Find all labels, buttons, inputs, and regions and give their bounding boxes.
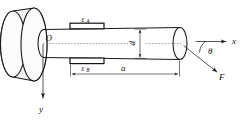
angle-theta-arc bbox=[200, 42, 206, 53]
shaft-top-edge bbox=[44, 28, 180, 30]
strain-gauge-bottom bbox=[70, 58, 104, 64]
angle-label: θ bbox=[208, 46, 213, 56]
force-label: F bbox=[218, 72, 225, 82]
shaft-bottom-edge bbox=[44, 58, 180, 60]
diameter-label: d bbox=[127, 41, 137, 46]
y-axis-label: y bbox=[38, 104, 43, 114]
fixed-support-disk bbox=[0, 8, 47, 81]
gauge-b-subscript: B bbox=[86, 67, 90, 73]
length-label: a bbox=[121, 63, 126, 73]
origin-label: O bbox=[46, 33, 53, 43]
gauge-a-subscript: A bbox=[85, 18, 90, 24]
gauge-b-body bbox=[70, 58, 104, 64]
gauge-a-label: ε bbox=[82, 15, 85, 24]
gauge-b-label: ε bbox=[82, 64, 85, 73]
gauge-a-label-group: ε A bbox=[82, 15, 91, 25]
figure-root: O x y F θ d a ε A ε B bbox=[0, 0, 246, 120]
diameter-label-group: d bbox=[127, 41, 137, 46]
shaft-diagram: O x y F θ d a ε A ε B bbox=[0, 0, 246, 120]
gauge-b-label-group: ε B bbox=[82, 64, 91, 74]
x-axis-label: x bbox=[231, 36, 236, 46]
